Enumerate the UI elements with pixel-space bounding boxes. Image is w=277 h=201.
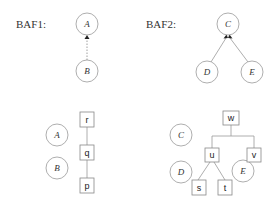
svg-text:s: s	[197, 183, 202, 193]
argument-d: D	[170, 161, 192, 183]
support-edge-d-c	[211, 38, 226, 62]
svg-text:u: u	[209, 150, 214, 160]
argument-c: C	[170, 124, 192, 146]
node-u: u	[205, 148, 219, 162]
argument-b: B	[76, 60, 98, 82]
node-q: q	[80, 145, 94, 160]
baf2-label: BAF2:	[146, 18, 176, 30]
svg-text:q: q	[84, 148, 89, 158]
arrowhead-icon	[85, 35, 90, 39]
svg-text:A: A	[53, 130, 60, 140]
tree1-panel: A B r q p	[46, 112, 94, 193]
support-edge-e-c	[230, 38, 248, 62]
svg-text:B: B	[54, 163, 60, 173]
svg-text:p: p	[84, 181, 89, 191]
argument-e: E	[232, 160, 254, 182]
node-w: w	[223, 111, 239, 125]
argument-d: D	[196, 61, 218, 83]
baf2-panel: BAF2: C D E	[146, 13, 263, 83]
svg-text:r: r	[86, 115, 89, 125]
svg-text:D: D	[203, 67, 211, 77]
node-s: s	[192, 180, 206, 195]
svg-text:B: B	[84, 66, 90, 76]
node-t: t	[218, 180, 232, 195]
node-r: r	[80, 112, 94, 127]
svg-text:E: E	[239, 166, 246, 176]
argument-a: A	[76, 13, 98, 35]
node-v: v	[247, 148, 261, 162]
baf1-label: BAF1:	[16, 18, 46, 30]
svg-text:v: v	[252, 150, 257, 160]
svg-text:C: C	[178, 130, 185, 140]
tree2-panel: C D E w u v s t	[170, 111, 261, 195]
svg-text:E: E	[248, 67, 255, 77]
argument-a: A	[46, 124, 68, 146]
svg-text:A: A	[83, 19, 90, 29]
argument-b: B	[46, 157, 68, 179]
argument-e: E	[241, 61, 263, 83]
svg-text:C: C	[225, 19, 232, 29]
svg-text:w: w	[227, 113, 235, 123]
baf1-panel: BAF1: A B	[16, 13, 98, 82]
node-p: p	[80, 178, 94, 193]
baf-diagram: BAF1: A B BAF2: C D E	[0, 0, 277, 201]
argument-c: C	[217, 13, 239, 35]
svg-text:D: D	[177, 167, 185, 177]
